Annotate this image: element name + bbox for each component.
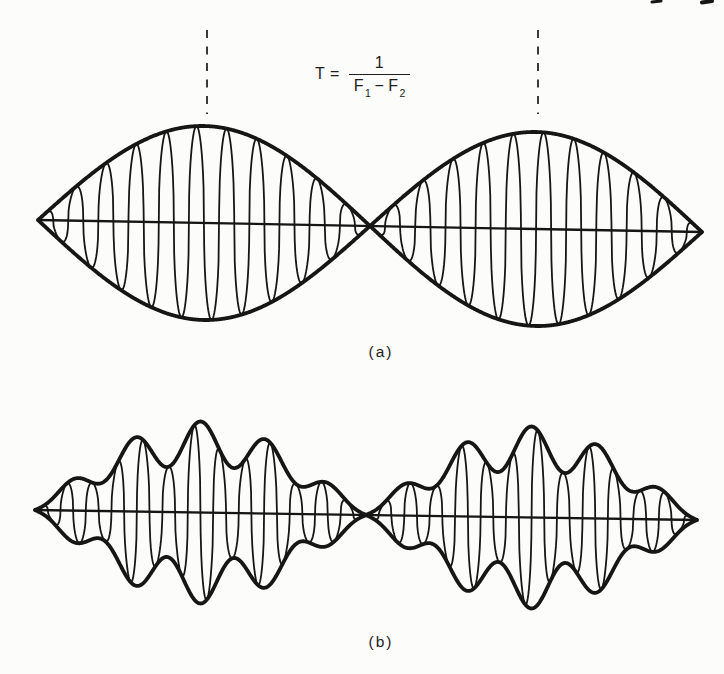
waveform-a-envelope	[38, 126, 702, 326]
formula-numerator: 1	[373, 55, 386, 74]
beat-period-formula: T = 1 F1−F2	[315, 55, 410, 93]
formula-minus-sign: −	[374, 77, 384, 94]
formula-denominator: F1−F2	[349, 74, 410, 93]
waveform-a	[38, 126, 702, 326]
book-page: T = 1 F1−F2 (a) (b)	[0, 0, 724, 674]
beats-figure	[0, 0, 724, 674]
page-edge-marks	[652, 1, 712, 3]
formula-f2-subscript: 2	[400, 87, 406, 99]
subfigure-label-a: (a)	[341, 343, 421, 361]
formula-f2-base: F	[388, 77, 398, 94]
formula-fraction: 1 F1−F2	[349, 55, 410, 93]
formula-lhs: T =	[315, 65, 340, 83]
page-edge-mark	[652, 1, 661, 2]
formula-f1-base: F	[354, 77, 364, 94]
formula-f1-subscript: 1	[365, 87, 371, 99]
waveform-b	[35, 422, 697, 609]
page-edge-mark	[702, 1, 712, 3]
subfigure-label-b: (b)	[341, 633, 421, 651]
